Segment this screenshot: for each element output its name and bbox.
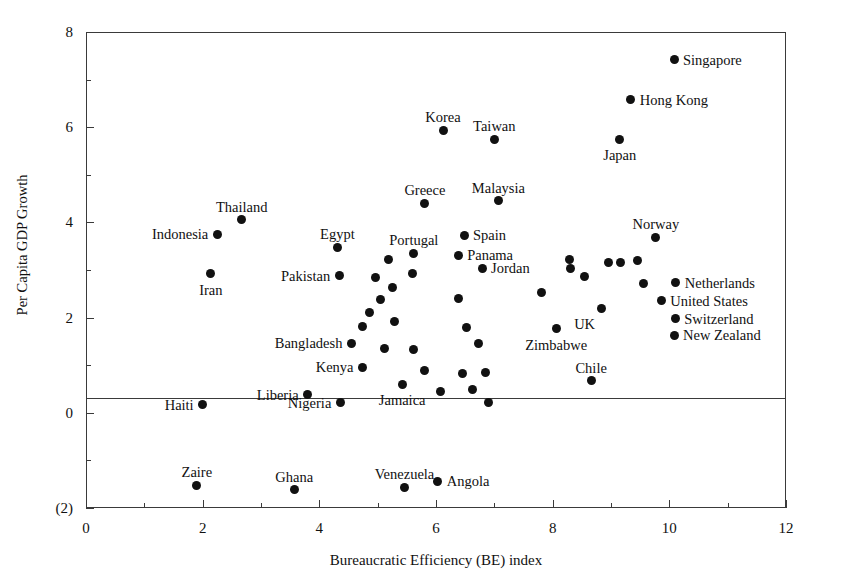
data-point-label: Liberia [257,387,299,402]
data-point-label: Netherlands [685,276,755,291]
data-point-label: Zimbabwe [525,338,587,353]
data-point [481,368,490,377]
data-point-label: Portugal [389,233,438,248]
data-point [490,135,499,144]
data-point-label: Malaysia [472,181,525,196]
data-point [454,294,463,303]
x-tick-label: 6 [432,520,440,537]
data-point-label: Ghana [275,470,313,485]
data-point [566,264,575,273]
y-tick-minor [86,270,91,271]
data-point-label: Switzerland [684,311,753,326]
x-tick-mark [786,500,787,508]
data-point [468,385,477,394]
data-point-label: Kenya [316,360,354,375]
data-point [639,279,648,288]
x-tick-label: 8 [549,520,557,537]
y-tick-mark [86,318,94,319]
data-point-label: Singapore [683,52,742,67]
data-point [335,271,344,280]
x-tick-mark [203,500,204,508]
data-point [462,323,471,332]
data-point [398,380,407,389]
data-point-label: Thailand [216,200,268,215]
data-point-label: Haiti [165,397,194,412]
y-tick-mark [86,32,94,33]
x-tick-minor [144,503,145,508]
y-tick-label: (2) [56,500,74,517]
y-tick-label: 0 [66,404,74,421]
y-tick-label: 8 [66,24,74,41]
data-point [474,339,483,348]
data-point-label: Norway [633,217,680,232]
data-point-label: Egypt [320,227,355,242]
x-tick-label: 0 [82,520,90,537]
data-point [670,331,679,340]
x-tick-minor [494,503,495,508]
x-tick-minor [728,503,729,508]
data-point-label: New Zealand [683,328,761,343]
y-tick-minor [86,365,91,366]
data-point [436,387,445,396]
data-point [615,135,624,144]
data-point-label: Spain [473,228,506,243]
data-point [380,344,389,353]
x-tick-label: 10 [662,520,677,537]
x-tick-mark [669,500,670,508]
data-point-label: Angola [447,474,490,489]
data-point [347,339,356,348]
data-point [371,273,380,282]
y-tick-label: 4 [66,214,74,231]
data-point [604,258,613,267]
data-point-label: United States [670,294,748,309]
x-tick-mark [86,500,87,508]
data-point-label: Indonesia [152,227,208,242]
x-tick-mark [553,500,554,508]
x-tick-minor [261,503,262,508]
data-point-label: Venezuela [375,467,435,482]
y-tick-minor [86,460,91,461]
data-point-label: Chile [575,361,606,376]
x-tick-minor [378,503,379,508]
data-point [390,317,399,326]
data-point [358,363,367,372]
y-tick-minor [86,80,91,81]
data-point-label: Hong Kong [640,92,708,107]
data-point [333,243,342,252]
data-point [460,231,469,240]
scatter-chart-figure: Per Capita GDP Growth Bureaucratic Effic… [0,0,841,582]
data-point [671,314,680,323]
data-point [376,295,385,304]
data-point-label: Bangladesh [275,336,343,351]
data-point-label: Korea [425,110,460,125]
x-tick-label: 12 [779,520,794,537]
data-point [552,324,561,333]
x-tick-label: 4 [316,520,324,537]
data-point [537,288,546,297]
x-axis-title: Bureaucratic Efficiency (BE) index [330,552,543,569]
y-tick-mark [86,413,94,414]
data-point-label: Zaire [182,465,213,480]
data-point-label: Japan [603,148,636,163]
x-tick-mark [319,500,320,508]
x-tick-label: 2 [199,520,207,537]
x-tick-mark [436,500,437,508]
data-point-label: UK [574,316,595,331]
data-point [458,369,467,378]
data-point-label: Greece [404,183,445,198]
y-tick-minor [86,175,91,176]
data-point [478,264,487,273]
y-tick-mark [86,127,94,128]
y-tick-label: 2 [66,309,74,326]
y-axis-title: Per Capita GDP Growth [14,175,31,316]
y-tick-mark [86,222,94,223]
data-point [400,483,409,492]
y-tick-mark [86,508,94,509]
data-point [439,126,448,135]
data-point-label: Jordan [491,261,530,276]
data-point [192,481,201,490]
data-point-label: Iran [199,283,222,298]
data-point [670,55,679,64]
data-point [494,196,503,205]
data-point [454,251,463,260]
